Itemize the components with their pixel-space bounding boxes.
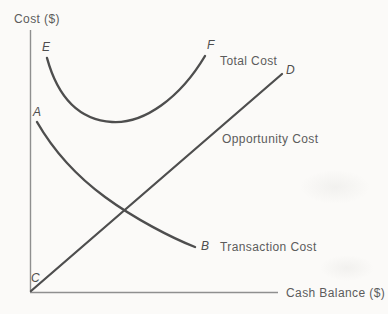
point-label-e: E [42, 41, 50, 53]
point-label-f: F [207, 39, 214, 51]
point-label-a: A [33, 106, 41, 118]
total-cost-label: Total Cost [220, 55, 277, 67]
transaction-cost-curve [37, 122, 195, 247]
opportunity-cost-label: Opportunity Cost [222, 133, 318, 145]
scan-artifact [320, 255, 374, 281]
point-label-d: D [286, 64, 295, 76]
total-cost-curve [47, 56, 205, 122]
point-label-b: B [201, 240, 209, 252]
point-label-c: C [31, 272, 40, 284]
x-axis-title: Cash Balance ($) [286, 287, 385, 299]
opportunity-cost-line [31, 74, 282, 291]
transaction-cost-label: Transaction Cost [220, 241, 317, 253]
scan-artifact [300, 170, 370, 204]
cash-management-cost-chart: Cost ($) Cash Balance ($) Total Cost Opp… [0, 0, 388, 314]
y-axis-title: Cost ($) [14, 13, 60, 25]
